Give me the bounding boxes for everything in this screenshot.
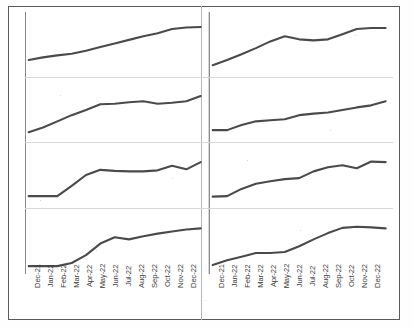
x-tick-right-8: Aug-22 bbox=[312, 276, 325, 322]
x-tick-right-5: May-22 bbox=[274, 276, 287, 322]
x-tick-right-6: Jun-22 bbox=[287, 276, 300, 322]
x-tick-left-11: Nov-22 bbox=[167, 276, 180, 322]
x-tick-right-9: Sep-22 bbox=[325, 276, 338, 322]
scan-speckle bbox=[355, 35, 356, 36]
x-tick-label: Dec-22 bbox=[187, 264, 198, 288]
figure-small-multiples: Dec-21Jan-22Feb-22Mar-22Apr-22May-22Jun-… bbox=[0, 0, 414, 328]
x-tick-left-6: Jun-22 bbox=[103, 276, 116, 322]
series-line-6 bbox=[213, 162, 386, 197]
scan-speckle bbox=[60, 95, 61, 96]
chart-plot-area-2 bbox=[209, 12, 393, 77]
x-tick-left-3: Mar-22 bbox=[64, 276, 77, 322]
chart-plot-area-3 bbox=[25, 78, 208, 143]
series-line-1 bbox=[29, 27, 201, 60]
x-tick-left-8: Aug-22 bbox=[128, 276, 141, 322]
series-line-7 bbox=[29, 228, 201, 266]
chart-panel-5 bbox=[25, 143, 209, 209]
series-line-5 bbox=[29, 162, 201, 196]
x-tick-left-1: Jan-22 bbox=[38, 276, 51, 322]
chart-plot-area-4 bbox=[209, 78, 393, 143]
scan-speckle bbox=[205, 300, 206, 301]
chart-panel-2 bbox=[209, 12, 393, 78]
chart-plot-area-6 bbox=[209, 143, 393, 208]
x-tick-left-0: Dec-21 bbox=[25, 276, 38, 322]
scan-speckle bbox=[96, 250, 97, 251]
series-line-3 bbox=[29, 96, 201, 132]
x-tick-left-2: Feb-22 bbox=[51, 276, 64, 322]
x-tick-right-4: Apr-22 bbox=[261, 276, 274, 322]
chart-plot-area-1 bbox=[25, 12, 208, 77]
scan-speckle bbox=[172, 178, 173, 179]
scan-speckle bbox=[300, 230, 301, 231]
series-line-8 bbox=[213, 226, 386, 264]
x-axis-labels-right: Dec-21Jan-22Feb-22Mar-22Apr-22May-22Jun-… bbox=[209, 276, 377, 322]
chart-panel-6 bbox=[209, 143, 393, 209]
chart-plot-area-5 bbox=[25, 143, 208, 208]
x-tick-right-7: Jul-22 bbox=[299, 276, 312, 322]
x-tick-right-12: Dec-22 bbox=[364, 276, 377, 322]
x-tick-right-3: Mar-22 bbox=[248, 276, 261, 322]
x-tick-right-2: Feb-22 bbox=[235, 276, 248, 322]
x-tick-right-0: Dec-21 bbox=[209, 276, 222, 322]
panel-grid bbox=[25, 12, 393, 274]
x-tick-left-9: Sep-22 bbox=[141, 276, 154, 322]
x-tick-right-1: Jan-22 bbox=[222, 276, 235, 322]
x-tick-left-7: Jul-22 bbox=[115, 276, 128, 322]
x-tick-label: Dec-22 bbox=[371, 264, 382, 288]
chart-panel-4 bbox=[209, 78, 393, 144]
x-tick-left-4: Apr-22 bbox=[77, 276, 90, 322]
x-tick-right-10: Oct-22 bbox=[338, 276, 351, 322]
chart-panel-3 bbox=[25, 78, 209, 144]
x-tick-left-5: May-22 bbox=[90, 276, 103, 322]
scan-speckle bbox=[40, 200, 41, 201]
scan-speckle bbox=[247, 160, 248, 161]
series-line-2 bbox=[213, 28, 386, 65]
scan-speckle bbox=[330, 130, 331, 131]
x-tick-left-12: Dec-22 bbox=[180, 276, 193, 322]
x-tick-right-11: Nov-22 bbox=[351, 276, 364, 322]
chart-panel-1 bbox=[25, 12, 209, 78]
x-tick-left-10: Oct-22 bbox=[154, 276, 167, 322]
series-line-4 bbox=[213, 101, 386, 130]
scan-speckle bbox=[118, 44, 119, 45]
x-axis-labels-left: Dec-21Jan-22Feb-22Mar-22Apr-22May-22Jun-… bbox=[25, 276, 193, 322]
